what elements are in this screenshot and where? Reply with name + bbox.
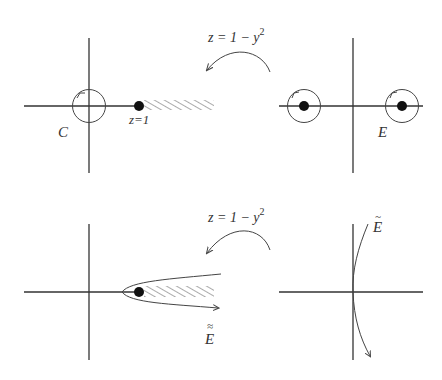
- contour-e-arrow-left-icon: [292, 92, 299, 98]
- map-exponent: 2: [260, 26, 265, 37]
- contour-e-double-tilde-label: E: [204, 331, 214, 347]
- panel-bottom-left: E ≈: [24, 224, 221, 360]
- map-label: z = 1 − y2: [207, 26, 265, 45]
- panel-bottom-map: z = 1 − y2: [207, 206, 270, 253]
- branch-point-dot: [134, 287, 144, 297]
- branch-point-label: z=1: [128, 112, 149, 127]
- panel-top-map: z = 1 − y2: [207, 26, 270, 72]
- contour-c-label: C: [58, 124, 69, 140]
- map-exponent: 2: [260, 206, 265, 217]
- branch-cut-hatch: [144, 100, 214, 110]
- double-tilde-accent: ≈: [207, 320, 213, 332]
- tilde-accent: ~: [375, 210, 381, 222]
- preimage-point-left: [299, 101, 309, 111]
- contour-mapping-diagram: C z=1 z = 1 − y2 E E ≈ z = 1 − y2: [0, 0, 442, 380]
- branch-point-dot: [134, 101, 144, 111]
- map-arc-arrow: [207, 231, 270, 253]
- panel-bottom-right: E ~: [279, 210, 423, 360]
- branch-cut-hatch: [144, 286, 214, 297]
- panel-top-right: E: [279, 38, 423, 173]
- map-arc-arrow: [207, 52, 270, 72]
- contour-e-arrow-right-icon: [390, 92, 397, 98]
- preimage-point-right: [397, 101, 407, 111]
- map-label: z = 1 − y2: [207, 206, 265, 225]
- contour-e-tilde-curve: [353, 224, 370, 356]
- panel-top-left: C z=1: [24, 38, 214, 173]
- contour-e-label: E: [377, 124, 387, 140]
